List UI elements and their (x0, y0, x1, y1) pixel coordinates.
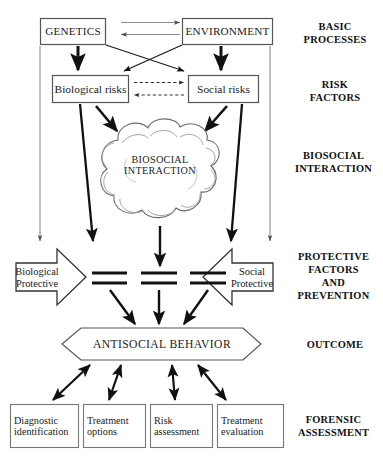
node-genetics-label: GENETICS (45, 25, 101, 38)
stage-label-risk-factors: RISK FACTORS (288, 78, 382, 104)
node-biological-risks: Biological risks (52, 75, 129, 103)
assessment-box-2-line-2: options (87, 426, 117, 437)
stage-label-3-line-2: INTERACTION (284, 162, 383, 175)
assessment-box-4-line-1: Treatment (221, 415, 263, 426)
assessment-box-treatment-options: Treatment options (83, 404, 146, 448)
stage-label-protective-factors-and-prevention: PROTECTIVE FACTORS AND PREVENTION (284, 250, 383, 302)
stage-label-1-line-2: PROCESSES (288, 33, 382, 46)
stage-label-forensic-assessment: FORENSIC ASSESSMENT (284, 413, 383, 439)
outcome-input-arrows (110, 290, 208, 324)
assessment-box-risk-assessment: Risk assessment (150, 404, 213, 448)
forensic-assessment-arrows (53, 365, 226, 400)
node-social-risks: Social risks (188, 75, 259, 103)
social-protective-line-1: Social (239, 266, 265, 278)
genetics-environment-exchange-arrows (121, 23, 180, 35)
biosocial-interaction-cloud (101, 119, 220, 218)
stage-label-basic-processes: BASIC PROCESSES (288, 20, 382, 46)
node-social-risks-label: Social risks (197, 83, 250, 96)
stage-label-4-line-1: PROTECTIVE (284, 250, 383, 263)
social-protective-line-2: Protective (231, 278, 273, 290)
node-environment-label: ENVIRONMENT (185, 25, 269, 38)
node-biological-risks-label: Biological risks (55, 83, 127, 96)
direct-risk-arrows (78, 46, 221, 70)
protective-block-arrows (16, 249, 273, 305)
stage-label-4-line-4: PREVENTION (284, 289, 383, 302)
stage-label-4-line-2: FACTORS (284, 263, 383, 276)
risk-interaction-dashed-arrows (134, 83, 184, 96)
assessment-box-1-line-1: Diagnostic (14, 415, 58, 426)
antisocial-behavior-hexagon (62, 328, 261, 360)
node-biosocial-interaction: BIOSOCIAL INTERACTION (108, 150, 212, 180)
stage-label-outcome: OUTCOME (288, 338, 382, 351)
stage-label-2-line-1: RISK (288, 78, 382, 91)
cross-influence-arrows (106, 45, 184, 71)
cloud-input-arrows (96, 106, 227, 131)
stage-label-6-line-2: ASSESSMENT (284, 426, 383, 439)
node-antisocial-behavior: ANTISOCIAL BEHAVIOR (62, 329, 262, 359)
antisocial-behavior-label: ANTISOCIAL BEHAVIOR (93, 338, 231, 351)
blocking-bars (92, 273, 226, 283)
biosocial-interaction-line-2: INTERACTION (124, 165, 196, 176)
assessment-box-1-line-2: identification (14, 426, 68, 437)
stage-label-5-line-1: OUTCOME (288, 338, 382, 351)
node-biological-protective: Biological Protective (14, 263, 60, 292)
biosocial-model-diagram: GENETICS ENVIRONMENT Biological risks So… (0, 0, 383, 461)
assessment-box-diagnostic-identification: Diagnostic identification (10, 404, 79, 448)
stage-label-2-line-2: FACTORS (288, 91, 382, 104)
stage-label-3-line-1: BIOSOCIAL (284, 149, 383, 162)
biosocial-interaction-line-1: BIOSOCIAL (131, 154, 188, 165)
assessment-box-treatment-evaluation: Treatment evaluation (217, 404, 284, 448)
stage-label-4-line-3: AND (284, 276, 383, 289)
diagram-vector-layer (0, 0, 383, 461)
node-social-protective: Social Protective (229, 263, 275, 292)
node-genetics: GENETICS (40, 18, 106, 45)
assessment-box-3-line-1: Risk (154, 415, 173, 426)
stage-label-1-line-1: BASIC (288, 20, 382, 33)
node-environment: ENVIRONMENT (182, 18, 273, 45)
assessment-box-3-line-2: assessment (154, 426, 199, 437)
assessment-box-4-line-2: evaluation (221, 426, 263, 437)
biological-protective-line-1: Biological (15, 266, 58, 278)
bypass-arrows (40, 46, 270, 241)
stage-label-biosocial-interaction: BIOSOCIAL INTERACTION (284, 149, 383, 175)
node-outlines (11, 19, 284, 448)
assessment-box-2-line-1: Treatment (87, 415, 129, 426)
stage-label-6-line-1: FORENSIC (284, 413, 383, 426)
biological-protective-line-2: Protective (16, 278, 58, 290)
